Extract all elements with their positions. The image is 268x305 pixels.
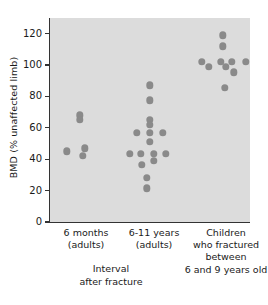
y-tick-label: 0 — [8, 217, 42, 227]
y-tick-mark — [45, 33, 49, 34]
x-category-label-1: 6-11 years (adults) — [120, 227, 188, 251]
y-tick-mark — [45, 221, 49, 222]
y-tick-label: 100 — [8, 60, 42, 70]
scatter-chart-figure: BMD (% unaffected limb) 020406080100120 … — [0, 0, 268, 305]
y-tick-label: 120 — [8, 29, 42, 39]
y-tick-mark — [45, 64, 49, 65]
y-tick-label: 40 — [8, 154, 42, 164]
y-tick-label: 20 — [8, 186, 42, 196]
y-tick-label: 60 — [8, 123, 42, 133]
y-tick-mark — [45, 127, 49, 128]
y-tick-mark — [45, 159, 49, 160]
x-axis-title: Interval after fracture — [56, 263, 166, 289]
x-category-label-0: 6 months (adults) — [50, 227, 122, 251]
y-tick-mark — [45, 190, 49, 191]
y-axis-line — [49, 18, 50, 223]
y-tick-label: 80 — [8, 91, 42, 101]
y-tick-mark — [45, 96, 49, 97]
x-axis-line — [49, 222, 250, 223]
x-category-label-2: Children who fractured between 6 and 9 y… — [184, 227, 268, 276]
